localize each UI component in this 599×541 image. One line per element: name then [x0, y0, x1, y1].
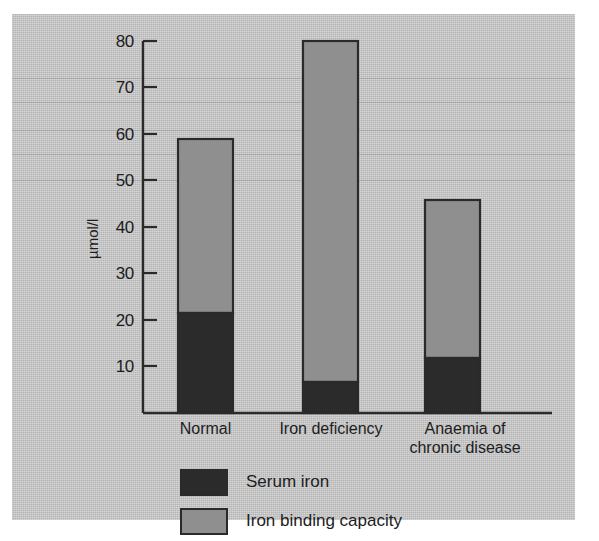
- bar-segment-iron-binding-capacity[interactable]: [303, 41, 358, 382]
- bar-segment-serum-iron[interactable]: [178, 313, 233, 413]
- legend-label-iron-binding-capacity: Iron binding capacity: [246, 511, 402, 531]
- bar-segment-serum-iron[interactable]: [303, 382, 358, 413]
- bar-segment-serum-iron[interactable]: [425, 358, 480, 413]
- y-axis-title: µmol/l: [84, 219, 101, 259]
- bar-segment-iron-binding-capacity[interactable]: [425, 200, 480, 358]
- x-category-label-anaemia-of-chronic-disease: Anaemia of chronic disease: [390, 419, 540, 457]
- y-tick-label-70: 70: [100, 78, 134, 98]
- bar-group-iron-deficiency[interactable]: [303, 41, 358, 413]
- x-category-label-iron-deficiency: Iron deficiency: [261, 419, 401, 438]
- y-tick-label-80: 80: [100, 32, 134, 52]
- y-axis-ticks: [143, 41, 157, 366]
- legend-swatch-serum-iron: [180, 469, 228, 496]
- y-tick-label-30: 30: [100, 264, 134, 284]
- x-category-label-normal: Normal: [143, 419, 268, 438]
- legend-swatch-iron-binding-capacity: [180, 508, 228, 535]
- bar-group-normal[interactable]: [178, 139, 233, 413]
- chart-page: 80 70 60 50 40 30 20 10 µmol/l Normal Ir…: [0, 0, 599, 541]
- y-tick-label-50: 50: [100, 171, 134, 191]
- y-tick-label-10: 10: [100, 357, 134, 377]
- bar-group-anaemia-of-chronic-disease[interactable]: [425, 200, 480, 413]
- bar-segment-iron-binding-capacity[interactable]: [178, 139, 233, 313]
- y-tick-label-40: 40: [100, 218, 134, 238]
- y-tick-label-60: 60: [100, 125, 134, 145]
- y-tick-label-20: 20: [100, 311, 134, 331]
- scanned-figure-area: 80 70 60 50 40 30 20 10 µmol/l Normal Ir…: [12, 14, 575, 520]
- legend-label-serum-iron: Serum iron: [246, 472, 329, 492]
